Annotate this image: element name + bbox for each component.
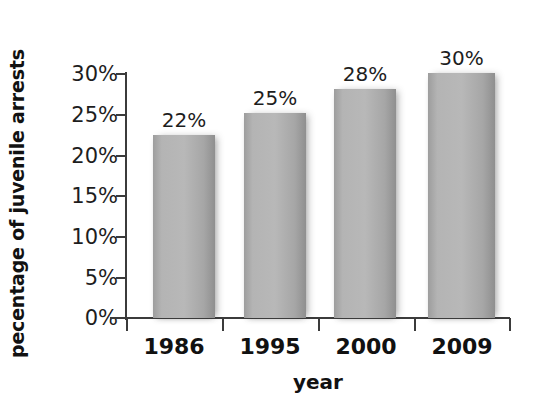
- bar-value-label-2009: 30%: [428, 46, 495, 70]
- bar-2000: [334, 89, 396, 318]
- bar-value-label-1995: 25%: [244, 86, 306, 110]
- x-tick-mark-4: [509, 318, 511, 331]
- bar-value-label-2000: 28%: [334, 62, 396, 86]
- bar-2009: [428, 73, 495, 318]
- x-tick-label-1986: 1986: [126, 334, 222, 359]
- x-tick-mark-1: [222, 318, 224, 331]
- x-axis-title: year: [126, 370, 510, 394]
- bar-1986: [153, 135, 215, 318]
- bar-1995: [244, 113, 306, 318]
- x-tick-label-1995: 1995: [222, 334, 318, 359]
- x-tick-label-2000: 2000: [318, 334, 414, 359]
- x-tick-mark-0: [126, 318, 128, 331]
- x-tick-mark-2: [318, 318, 320, 331]
- bar-chart-figure: pecentage of juvenile arrests 30% 25% 20…: [0, 0, 542, 417]
- x-tick-mark-3: [414, 318, 416, 331]
- bar-value-label-1986: 22%: [153, 108, 215, 132]
- x-tick-label-2009: 2009: [414, 334, 510, 359]
